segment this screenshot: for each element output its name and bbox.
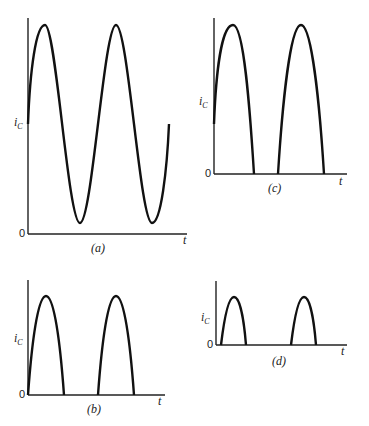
plot-b-caption: (b) xyxy=(87,403,101,415)
plot-a-ylabel-sub: C xyxy=(17,122,22,131)
plot-b-ylabel-sub: C xyxy=(17,338,22,347)
plot-c-ylabel-sub: C xyxy=(202,101,207,110)
plot-d-xlabel: t xyxy=(341,345,344,357)
plot-b-zero-label: 0 xyxy=(19,389,25,400)
plot-d-caption: (d) xyxy=(272,355,286,367)
plot-a-xlabel: t xyxy=(183,234,186,246)
plot-d-waveform xyxy=(221,297,316,345)
plot-d-ylabel: iC xyxy=(201,311,210,323)
waveform-figure xyxy=(0,0,369,426)
plot-b-xlabel: t xyxy=(158,395,161,407)
plot-c-ylabel: iC xyxy=(199,95,208,107)
plot-c-waveform xyxy=(214,25,324,174)
plot-d-zero-label: 0 xyxy=(207,339,213,350)
plot-a-waveform xyxy=(28,25,169,223)
plot-a-ylabel: iC xyxy=(14,116,23,128)
plot-c-xlabel: t xyxy=(339,175,342,187)
plot-d-ylabel-sub: C xyxy=(204,317,209,326)
plot-c xyxy=(214,18,347,174)
plot-a xyxy=(28,18,187,234)
plot-c-zero-label: 0 xyxy=(205,168,211,179)
plot-a-caption: (a) xyxy=(91,242,105,254)
plot-b xyxy=(28,280,165,395)
plot-c-caption: (c) xyxy=(268,182,281,194)
plot-b-waveform xyxy=(28,296,134,395)
plot-a-zero-label: 0 xyxy=(19,228,25,239)
plot-d xyxy=(216,281,347,345)
plot-b-ylabel: iC xyxy=(14,332,23,344)
